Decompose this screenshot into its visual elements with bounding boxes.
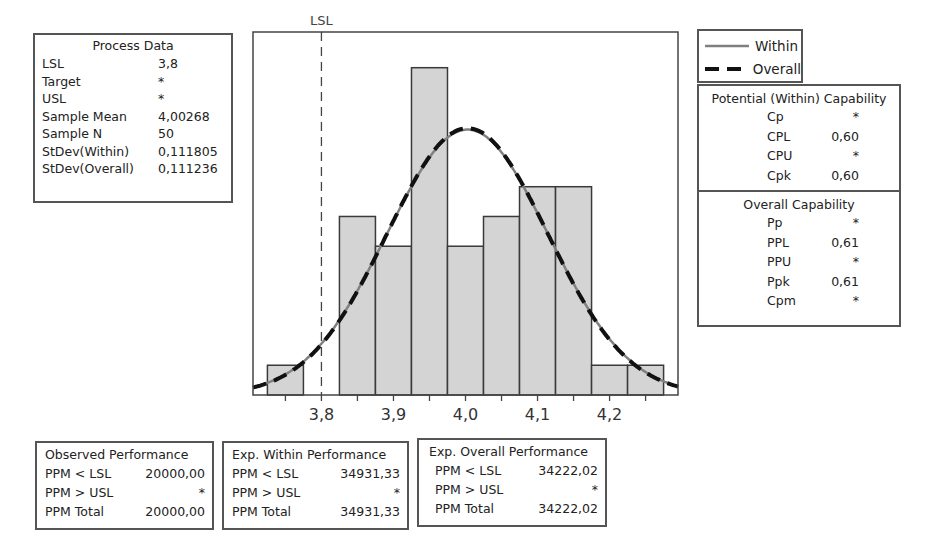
perf-row-ppm-total: PPM Total20000,00 <box>45 502 205 521</box>
potential-capability-section: Potential (Within) Capability Cp* CPL0,6… <box>699 86 899 192</box>
histogram-bar <box>520 187 556 395</box>
potential-capability-title: Potential (Within) Capability <box>699 90 899 107</box>
row-value: 20000,00 <box>145 502 205 521</box>
x-tick-label: 4,2 <box>597 405 622 424</box>
row-label: PPM Total <box>45 502 104 521</box>
row-label: PPL <box>767 233 821 253</box>
cap-row-pp: Pp* <box>699 213 899 233</box>
row-label: PPM < LSL <box>45 464 111 483</box>
chart-legend: Within Overall <box>697 29 803 83</box>
lsl-label: LSL <box>310 13 333 28</box>
process-data-title: Process Data <box>35 37 231 54</box>
row-value: * <box>821 107 859 127</box>
perf-row-ppm-total: PPM Total34222,02 <box>429 499 598 518</box>
row-value: * <box>158 90 164 108</box>
perf-row-ppm-total: PPM Total34931,33 <box>232 502 400 521</box>
x-tick-label: 4,0 <box>453 405 478 424</box>
row-label: Pp <box>767 213 821 233</box>
row-label: USL <box>42 90 158 108</box>
process-row-sample-mean: Sample Mean4,00268 <box>42 108 231 126</box>
row-label: PPM Total <box>232 502 291 521</box>
cap-row-cp: Cp* <box>699 107 899 127</box>
row-value: * <box>158 73 164 91</box>
row-label: StDev(Within) <box>42 143 158 161</box>
cap-row-cpm: Cpm* <box>699 291 899 311</box>
row-label: PPM Total <box>435 499 494 518</box>
row-value: 0,60 <box>821 127 859 147</box>
cap-row-cpk: Cpk0,60 <box>699 166 899 186</box>
x-tick-label: 4,1 <box>525 405 550 424</box>
row-value: 0,61 <box>821 233 859 253</box>
solid-line-icon <box>705 43 749 49</box>
perf-row-ppm-gt-usl: PPM > USL* <box>429 480 598 499</box>
row-label: CPU <box>767 146 821 166</box>
exp-overall-performance-title: Exp. Overall Performance <box>429 443 598 460</box>
row-value: 34222,02 <box>538 461 598 480</box>
process-row-stdev-within: StDev(Within)0,111805 <box>42 143 231 161</box>
histogram-bar <box>447 246 483 395</box>
row-label: Sample Mean <box>42 108 158 126</box>
row-value: 34222,02 <box>538 499 598 518</box>
process-row-stdev-overall: StDev(Overall)0,111236 <box>42 160 231 178</box>
x-tick-label: 3,8 <box>309 405 334 424</box>
row-label: PPM < LSL <box>232 464 298 483</box>
cap-row-cpl: CPL0,60 <box>699 127 899 147</box>
row-label: PPM > USL <box>45 483 113 502</box>
cap-row-ppu: PPU* <box>699 252 899 272</box>
row-value: * <box>394 483 400 502</box>
row-value: * <box>821 252 859 272</box>
legend-item-within: Within <box>705 34 801 57</box>
row-label: LSL <box>42 55 158 73</box>
perf-row-ppm-gt-usl: PPM > USL* <box>232 483 400 502</box>
dashed-line-icon <box>705 66 747 72</box>
row-label: Target <box>42 73 158 91</box>
observed-performance-title: Observed Performance <box>45 446 205 463</box>
row-label: Cpm <box>767 291 821 311</box>
exp-within-performance-title: Exp. Within Performance <box>232 446 400 463</box>
row-label: PPM < LSL <box>435 461 501 480</box>
row-value: 34931,33 <box>340 464 400 483</box>
reference-lines: LSL <box>310 13 333 395</box>
row-label: PPU <box>767 252 821 272</box>
perf-row-ppm-gt-usl: PPM > USL* <box>45 483 205 502</box>
cap-row-ppl: PPL0,61 <box>699 233 899 253</box>
overall-capability-section: Overall Capability Pp* PPL0,61 PPU* Ppk0… <box>699 192 899 325</box>
row-value: 34931,33 <box>340 502 400 521</box>
row-value: * <box>821 291 859 311</box>
process-data-panel: Process Data LSL3,8 Target* USL* Sample … <box>33 33 233 203</box>
row-label: Cp <box>767 107 821 127</box>
perf-row-ppm-lt-lsl: PPM < LSL34931,33 <box>232 464 400 483</box>
overall-capability-title: Overall Capability <box>699 196 899 213</box>
row-label: StDev(Overall) <box>42 160 158 178</box>
histogram-bar <box>556 187 592 395</box>
row-label: PPM > USL <box>232 483 300 502</box>
row-value: 20000,00 <box>145 464 205 483</box>
row-label: Sample N <box>42 125 158 143</box>
capability-panel: Potential (Within) Capability Cp* CPL0,6… <box>697 84 901 327</box>
row-value: * <box>821 213 859 233</box>
row-value: 0,61 <box>821 272 859 292</box>
row-label: CPL <box>767 127 821 147</box>
exp-overall-performance-panel: Exp. Overall Performance PPM < LSL34222,… <box>417 438 607 527</box>
process-row-usl: USL* <box>42 90 231 108</box>
row-value: * <box>821 146 859 166</box>
row-label: PPM > USL <box>435 480 503 499</box>
row-value: 0,111236 <box>158 160 218 178</box>
row-value: 3,8 <box>158 55 178 73</box>
histogram-bar <box>484 216 520 395</box>
observed-performance-panel: Observed Performance PPM < LSL20000,00 P… <box>35 441 214 530</box>
row-value: * <box>592 480 598 499</box>
legend-label-overall: Overall <box>753 61 801 77</box>
histogram-bar <box>339 216 375 395</box>
row-value: * <box>199 483 205 502</box>
x-tick-label: 3,9 <box>381 405 406 424</box>
row-value: 4,00268 <box>158 108 210 126</box>
row-value: 0,111805 <box>158 143 218 161</box>
perf-row-ppm-lt-lsl: PPM < LSL20000,00 <box>45 464 205 483</box>
process-row-target: Target* <box>42 73 231 91</box>
x-axis: 3,83,94,04,14,2 <box>285 395 645 424</box>
cap-row-cpu: CPU* <box>699 146 899 166</box>
row-label: Cpk <box>767 166 821 186</box>
process-row-sample-n: Sample N50 <box>42 125 231 143</box>
process-row-lsl: LSL3,8 <box>42 55 231 73</box>
